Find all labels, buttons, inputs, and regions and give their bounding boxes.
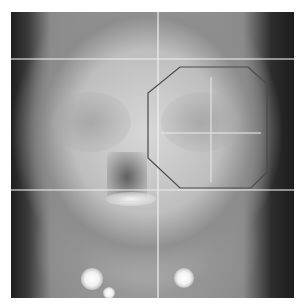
xray-image bbox=[11, 12, 294, 298]
octagon-roi-overlay[interactable] bbox=[11, 12, 294, 298]
